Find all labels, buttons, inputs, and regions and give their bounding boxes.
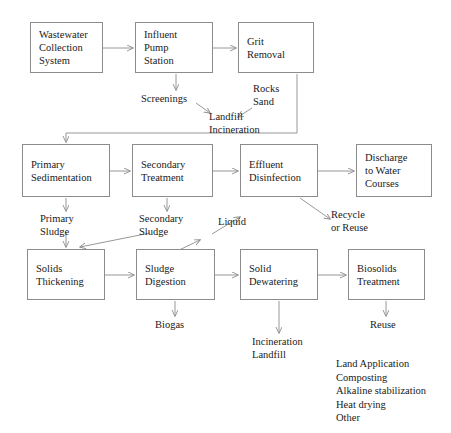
node-line: Disinfection	[249, 171, 317, 184]
label-recycle-or-reuse: Recycle or Reuse	[331, 208, 368, 234]
label-biogas: Biogas	[155, 318, 184, 331]
label-incineration-landfill: Incineration Landfill	[252, 335, 303, 361]
label-liquid: Liquid	[218, 215, 246, 228]
node-line: Digestion	[145, 275, 214, 288]
node-solids-thickening[interactable]: Solids Thickening	[27, 249, 105, 300]
node-line: to Water	[365, 164, 431, 177]
node-line: Removal	[247, 48, 313, 61]
arrow-screenings-to-landfill	[196, 103, 210, 113]
node-line: Pump	[144, 41, 212, 54]
label-secondary-sludge: Secondary Sludge	[139, 212, 183, 238]
node-solid-dewatering[interactable]: Solid Dewatering	[240, 249, 318, 300]
node-sludge-digestion[interactable]: Sludge Digestion	[136, 249, 215, 300]
biosolids-options-list: Land Application Composting Alkaline sta…	[336, 357, 426, 425]
label-rocks-sand: Rocks Sand	[253, 82, 279, 108]
label-screenings: Screenings	[141, 92, 187, 105]
node-line: Treatment	[357, 275, 424, 288]
node-line: Station	[144, 54, 212, 67]
label-primary-sludge: Primary Sludge	[40, 212, 74, 238]
label-reuse: Reuse	[370, 318, 396, 331]
node-line: Influent	[144, 28, 212, 41]
node-primary-sedimentation[interactable]: Primary Sedimentation	[22, 144, 110, 197]
node-line: Biosolids	[357, 262, 424, 275]
node-line: Dewatering	[249, 275, 317, 288]
list-item: Alkaline stabilization	[336, 384, 426, 398]
node-line: Primary	[31, 158, 109, 171]
node-biosolids-treatment[interactable]: Biosolids Treatment	[348, 249, 425, 300]
node-line: Solid	[249, 262, 317, 275]
node-line: Sludge	[145, 262, 214, 275]
node-line: System	[39, 54, 102, 67]
node-line: Discharge	[365, 151, 431, 164]
process-flow-diagram: Wastewater Collection System Influent Pu…	[0, 0, 451, 433]
label-landfill-incineration: Landfill Incineration	[209, 110, 260, 136]
node-line: Wastewater	[39, 28, 102, 41]
node-discharge-to-water-courses[interactable]: Discharge to Water Courses	[356, 144, 432, 197]
node-line: Grit	[247, 35, 313, 48]
node-wastewater-collection-system[interactable]: Wastewater Collection System	[30, 22, 103, 73]
node-line: Secondary	[141, 158, 212, 171]
node-effluent-disinfection[interactable]: Effluent Disinfection	[240, 144, 318, 197]
list-item: Other	[336, 411, 426, 425]
node-line: Effluent	[249, 158, 317, 171]
node-line: Solids	[36, 262, 104, 275]
node-line: Sedimentation	[31, 171, 109, 184]
arrow-effluent-to-recycle	[300, 198, 330, 219]
list-item: Composting	[336, 371, 426, 385]
list-item: Land Application	[336, 357, 426, 371]
node-line: Collection	[39, 41, 102, 54]
list-item: Heat drying	[336, 398, 426, 412]
node-influent-pump-station[interactable]: Influent Pump Station	[135, 22, 213, 73]
node-line: Treatment	[141, 171, 212, 184]
node-grit-removal[interactable]: Grit Removal	[238, 22, 314, 73]
node-secondary-treatment[interactable]: Secondary Treatment	[132, 144, 213, 197]
node-line: Thickening	[36, 275, 104, 288]
node-line: Courses	[365, 177, 431, 190]
